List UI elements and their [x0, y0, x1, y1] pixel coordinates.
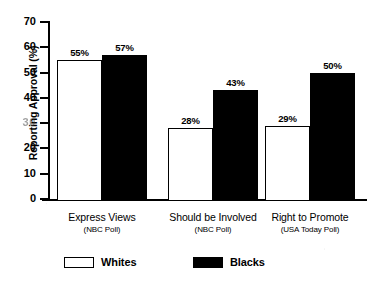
legend-label: Blacks	[230, 256, 265, 268]
bar-value-label: 55%	[57, 47, 102, 58]
y-tick-mark	[40, 72, 49, 74]
legend-label: Whites	[101, 256, 136, 268]
bar-chart: Reporting Approval (%) 706050403020100 5…	[0, 0, 386, 283]
y-tick-label: 30	[0, 117, 36, 128]
y-tick-label: 50	[0, 67, 36, 78]
y-tick-mark	[40, 173, 49, 175]
bar-value-label: 28%	[168, 115, 213, 126]
legend-swatch-icon	[64, 257, 94, 268]
bar-whites-1	[57, 60, 102, 200]
y-tick-mark	[40, 198, 49, 200]
y-tick-mark	[40, 147, 49, 149]
bar-value-label: 57%	[102, 42, 147, 53]
y-tick-label: 20	[0, 142, 36, 153]
legend-item-blacks[interactable]: Blacks	[193, 256, 265, 268]
y-tick-mark	[40, 97, 49, 99]
y-tick-label: 60	[0, 41, 36, 52]
y-tick-label: 70	[0, 16, 36, 27]
chart-legend: WhitesBlacks	[0, 252, 386, 278]
y-tick-mark	[40, 21, 49, 23]
y-tick-label: 0	[0, 193, 36, 204]
bar-whites-3	[265, 126, 310, 200]
y-tick-mark	[40, 46, 49, 48]
category-label-source: (USA Today Poll)	[240, 224, 380, 235]
y-tick-mark	[40, 122, 49, 124]
bar-blacks-2	[213, 90, 258, 200]
y-tick-label: 10	[0, 168, 36, 179]
y-tick-label: 40	[0, 92, 36, 103]
category-label-3: Right to Promote(USA Today Poll)	[240, 211, 380, 235]
category-label-main: Right to Promote	[240, 211, 380, 224]
bar-blacks-3	[310, 73, 355, 200]
bar-value-label: 43%	[213, 77, 258, 88]
legend-swatch-icon	[193, 257, 223, 268]
legend-item-whites[interactable]: Whites	[64, 256, 136, 268]
bar-blacks-1	[102, 55, 147, 200]
bar-value-label: 50%	[310, 60, 355, 71]
bar-value-label: 29%	[265, 113, 310, 124]
bar-whites-2	[168, 128, 213, 200]
